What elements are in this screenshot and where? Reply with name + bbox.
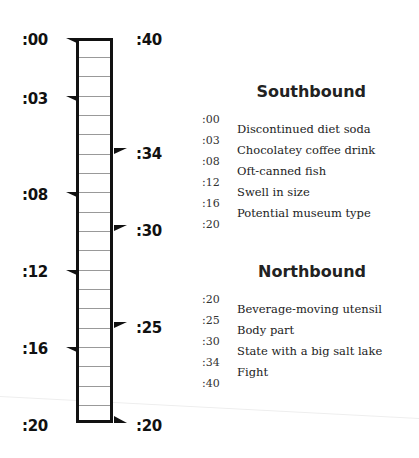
clue: Beverage-moving utensil — [237, 299, 382, 320]
clue: Discontinued diet soda — [237, 119, 375, 140]
row-line — [79, 347, 110, 348]
time: :20 — [202, 289, 220, 310]
time: :40 — [202, 373, 220, 394]
southbound-times: :00 :03 :08 :12 :16 :20 — [202, 109, 220, 235]
row-line — [79, 57, 110, 58]
right-label-25: :25 — [136, 321, 162, 336]
time: :03 — [202, 130, 220, 151]
start-flag-20-icon — [114, 416, 127, 423]
start-flag-03-icon — [66, 96, 79, 102]
row-line — [79, 134, 110, 135]
row-line — [79, 270, 110, 271]
start-flag-25-icon — [114, 322, 127, 328]
row-line — [79, 96, 110, 97]
clue: Chocolatey coffee drink — [237, 140, 375, 161]
time: :34 — [202, 352, 220, 373]
row-line — [79, 386, 110, 387]
start-flag-30-icon — [114, 225, 127, 231]
clue: Oft-canned fish — [237, 161, 375, 182]
left-label-08: :08 — [22, 188, 48, 203]
time: :12 — [202, 172, 220, 193]
row-line — [79, 76, 110, 77]
right-label-30: :30 — [136, 224, 162, 239]
answer-column — [76, 38, 113, 423]
row-line — [79, 192, 110, 193]
northbound-heading: Northbound — [258, 262, 366, 281]
row-line — [79, 405, 110, 406]
time: :25 — [202, 310, 220, 331]
northbound-times: :20 :25 :30 :34 :40 — [202, 289, 220, 394]
left-label-12: :12 — [22, 265, 48, 280]
row-line — [79, 154, 110, 155]
southbound-clues: Discontinued diet soda Chocolatey coffee… — [237, 119, 375, 224]
start-flag-16-icon — [66, 347, 79, 353]
start-flag-12-icon — [66, 270, 79, 276]
row-line — [79, 115, 110, 116]
row-line — [79, 250, 110, 251]
left-label-03: :03 — [22, 92, 48, 107]
time: :30 — [202, 331, 220, 352]
row-line — [79, 173, 110, 174]
clue: Potential museum type — [237, 203, 375, 224]
row-line — [79, 212, 110, 213]
time: :00 — [202, 109, 220, 130]
row-line — [79, 231, 110, 232]
fold-line — [0, 396, 419, 419]
clue: State with a big salt lake — [237, 341, 382, 362]
clue: Fight — [237, 362, 382, 383]
time: :08 — [202, 151, 220, 172]
time: :20 — [202, 214, 220, 235]
clue: Swell in size — [237, 182, 375, 203]
southbound-heading: Southbound — [256, 82, 366, 101]
row-line — [79, 366, 110, 367]
right-label-34: :34 — [136, 147, 162, 162]
start-flag-00-icon — [66, 38, 79, 44]
right-label-40: :40 — [136, 33, 162, 48]
row-line — [79, 328, 110, 329]
row-line — [79, 308, 110, 309]
northbound-clues: Beverage-moving utensil Body part State … — [237, 299, 382, 383]
time: :16 — [202, 193, 220, 214]
clue: Body part — [237, 320, 382, 341]
start-flag-34-icon — [114, 148, 127, 154]
left-label-20: :20 — [22, 419, 48, 434]
row-line — [79, 289, 110, 290]
start-flag-08-icon — [66, 192, 79, 198]
right-label-20: :20 — [136, 419, 162, 434]
left-label-00: :00 — [22, 33, 48, 48]
left-label-16: :16 — [22, 342, 48, 357]
